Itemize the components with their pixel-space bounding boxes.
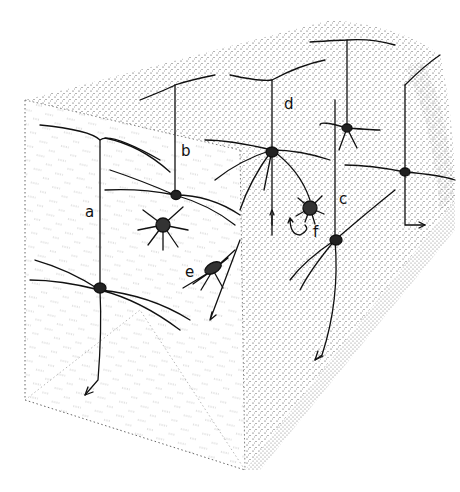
- label-f: f: [313, 225, 318, 240]
- label-b: b: [181, 144, 191, 159]
- label-d: d: [284, 97, 294, 112]
- label-a: a: [85, 205, 94, 220]
- label-c: c: [339, 192, 347, 207]
- cortex-block-illustration: [0, 0, 460, 492]
- front-face: [25, 100, 245, 470]
- label-e: e: [185, 265, 194, 280]
